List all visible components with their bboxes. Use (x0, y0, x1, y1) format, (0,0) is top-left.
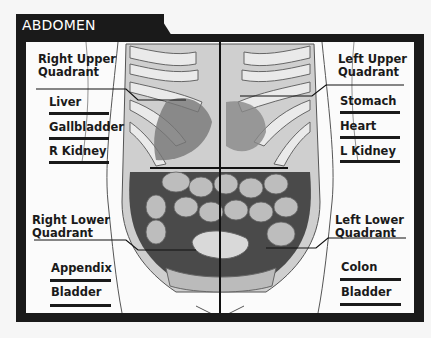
llq-quadrant-label: Left Lower Quadrant (335, 214, 404, 240)
rlq-item-bladder: Bladder (51, 286, 101, 299)
llq-item-bladder: Bladder (341, 286, 391, 299)
rug-item-gallbladder: Gallbladder (49, 121, 124, 134)
llq-underline-bladder (340, 303, 401, 306)
diagram-title: ABDOMEN (22, 17, 96, 33)
luq-underline-lkidney (340, 160, 400, 163)
rug-quadrant-label: Right Upper Quadrant (38, 53, 116, 79)
rlq-quadrant-label: Right Lower Quadrant (32, 214, 110, 240)
luq-item-lkidney: L Kidney (340, 145, 396, 158)
rug-underline-gallbladder (49, 137, 109, 140)
rlq-line2: Quadrant (32, 227, 110, 240)
llq-line2: Quadrant (335, 227, 404, 240)
title-tab-slope (158, 14, 172, 36)
llq-item-colon: Colon (341, 261, 377, 274)
rug-underline-liver (49, 112, 109, 115)
luq-underline-stomach (340, 111, 400, 114)
luq-item-stomach: Stomach (340, 95, 396, 108)
rlq-underline-appendix (50, 279, 111, 282)
llq-underline-colon (340, 278, 401, 281)
rug-item-rkidney: R Kidney (49, 145, 106, 158)
luq-underline-heart (340, 136, 400, 139)
rlq-item-appendix: Appendix (51, 262, 112, 275)
luq-quadrant-label: Left Upper Quadrant (338, 53, 407, 79)
rlq-underline-bladder (50, 304, 111, 307)
rug-item-liver: Liver (49, 96, 81, 109)
luq-line2: Quadrant (338, 66, 407, 79)
rug-underline-rkidney (49, 161, 109, 164)
luq-item-heart: Heart (340, 120, 376, 133)
rug-line2: Quadrant (38, 66, 116, 79)
